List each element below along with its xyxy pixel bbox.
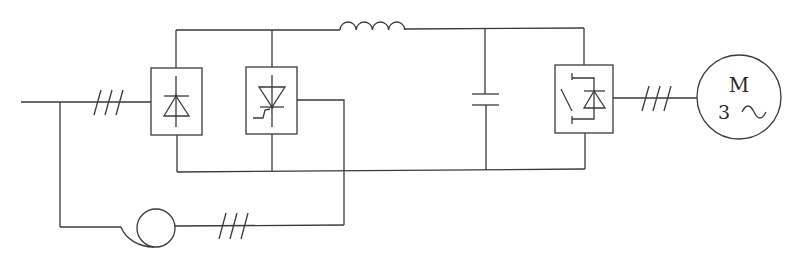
motor-icon: M 3 bbox=[697, 55, 781, 139]
motor-phase-count: 3 bbox=[718, 101, 730, 123]
inverter-block bbox=[555, 65, 613, 133]
ac-sine-icon bbox=[742, 106, 766, 118]
motor-label: M bbox=[729, 73, 749, 97]
thyristor-icon bbox=[253, 75, 285, 127]
switch-with-diode-icon bbox=[561, 73, 605, 124]
drive-circuit-diagram: M 3 bbox=[0, 0, 795, 256]
transformer-icon bbox=[137, 209, 175, 247]
diode-icon bbox=[164, 76, 189, 127]
inductor-icon bbox=[340, 22, 405, 30]
ac-input-line bbox=[21, 102, 151, 227]
bottom-dc-bus bbox=[177, 105, 585, 172]
feedback-loop bbox=[60, 225, 344, 247]
thyristor-feedback-wire bbox=[297, 100, 344, 225]
top-dc-bus bbox=[176, 28, 584, 94]
capacitor-icon bbox=[472, 94, 499, 105]
diode-rectifier-block bbox=[151, 68, 202, 135]
thyristor-converter-block bbox=[246, 67, 297, 134]
